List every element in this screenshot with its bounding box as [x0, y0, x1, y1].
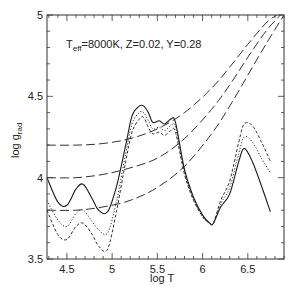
x-tick-label: 6.5: [240, 263, 255, 275]
plot-frame: [47, 15, 284, 259]
y-tick-label: 3.5: [28, 253, 43, 265]
x-tick-label: 5: [109, 263, 115, 275]
series-layer: [47, 15, 284, 252]
series-long-dashed-upper: [47, 15, 277, 145]
series-dotted: [47, 111, 270, 234]
y-axis-label: log grad: [9, 123, 24, 158]
x-tick-label: 6: [200, 263, 206, 275]
x-axis-label: log T: [150, 272, 175, 284]
y-tick-label: 4: [37, 172, 43, 184]
annotation: Teff=8000K, Z=0.02, Y=0.28: [66, 38, 201, 53]
y-tick-label: 5: [37, 9, 43, 21]
series-solid: [47, 105, 270, 225]
y-tick-label: 4.5: [28, 90, 43, 102]
x-tick-label: 4.5: [59, 263, 74, 275]
chart-canvas: 4.555.566.53.544.55 Teff=8000K, Z=0.02, …: [0, 0, 295, 294]
